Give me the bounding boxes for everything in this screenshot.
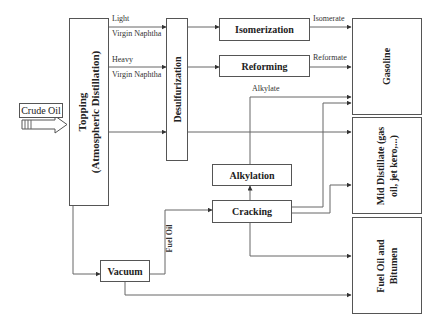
gasoline-product: Gasoline: [352, 18, 422, 115]
gasoline-label: Gasoline: [380, 48, 393, 85]
isomerization-label: Isomerization: [235, 24, 294, 35]
alkylation-unit: Alkylation: [212, 164, 292, 186]
desulfurization-unit: Desulfurization: [166, 18, 188, 161]
topping-title: Topping: [76, 51, 89, 174]
topping-unit: Topping (Atmospheric Distillation): [69, 18, 109, 206]
cracking-unit: Cracking: [212, 200, 292, 223]
stream-light-naphtha-label: Virgin Naphtha: [112, 29, 161, 38]
vacuum-unit: Vacuum: [100, 260, 150, 282]
stream-fuel-oil-label: Fuel Oil: [163, 225, 176, 253]
crude-oil-input: Crude Oil: [19, 103, 63, 118]
fuel-oil-line1: Fuel Oil and: [374, 239, 387, 292]
stream-alkylate-label: Alkylate: [252, 84, 280, 93]
fuel-oil-bitumen-product: Fuel Oil and Bitumen: [352, 217, 422, 314]
reforming-unit: Reforming: [219, 55, 310, 77]
crude-oil-label: Crude Oil: [21, 105, 61, 116]
isomerization-unit: Isomerization: [219, 18, 310, 41]
desulfurization-label: Desulfurization: [171, 56, 184, 122]
alkylation-label: Alkylation: [229, 170, 274, 181]
fuel-oil-line2: Bitumen: [387, 239, 400, 292]
stream-light-label: Light: [112, 14, 129, 23]
topping-subtitle: (Atmospheric Distillation): [89, 51, 102, 174]
mid-distillate-product: Mid Distillate (gas oil, jet kero,...): [352, 117, 422, 214]
cracking-label: Cracking: [232, 206, 272, 217]
reforming-label: Reforming: [241, 61, 287, 72]
mid-distillate-line2: oil, jet kero,...): [387, 126, 400, 204]
stream-isomerate-label: Isomerate: [313, 14, 345, 23]
vacuum-label: Vacuum: [107, 266, 142, 277]
stream-reformate-label: Reformate: [313, 53, 347, 62]
stream-heavy-label: Heavy: [112, 55, 133, 64]
mid-distillate-line1: Mid Distillate (gas: [374, 126, 387, 204]
stream-heavy-naphtha-label: Virgin Naphtha: [112, 70, 161, 79]
